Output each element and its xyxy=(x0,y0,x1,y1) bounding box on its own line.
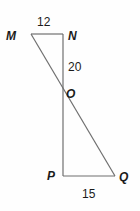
vertex-label-m: M xyxy=(6,30,16,42)
vertex-label-q: Q xyxy=(119,171,128,183)
measure-label-mn: 12 xyxy=(37,16,50,28)
geometry-figure: M N O P Q 12 20 15 xyxy=(0,0,140,211)
measure-label-pq: 15 xyxy=(82,188,95,200)
vertex-label-p: P xyxy=(47,170,55,182)
vertex-label-o: O xyxy=(66,88,75,100)
measure-label-no: 20 xyxy=(68,61,81,73)
segment-mq-line xyxy=(31,34,115,176)
vertex-label-n: N xyxy=(68,30,77,42)
